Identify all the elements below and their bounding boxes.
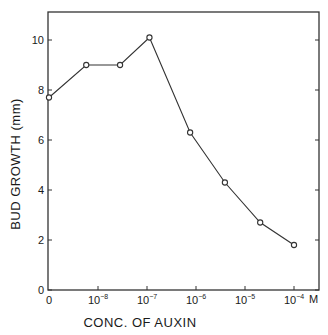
data-point-marker (84, 62, 89, 67)
plot-border (48, 12, 319, 290)
x-tick-label: 10−5 (235, 293, 255, 306)
y-tick-label: 0 (38, 284, 44, 296)
y-tick-label: 2 (38, 234, 44, 246)
y-tick-label: 6 (38, 134, 44, 146)
y-axis-ticks: 0246810 (32, 34, 319, 296)
x-tick-label: 10−8 (88, 293, 108, 306)
y-tick-label: 8 (38, 84, 44, 96)
data-point-marker (188, 130, 193, 135)
chart: 0246810 010−810−710−610−510−4 M CONC. OF… (0, 0, 328, 335)
x-axis-label: CONC. OF AUXIN (83, 315, 196, 330)
data-point-marker (117, 62, 122, 67)
data-series (46, 35, 296, 248)
data-point-marker (291, 242, 296, 247)
series-line (49, 38, 294, 246)
y-tick-label: 10 (32, 34, 44, 46)
y-tick-label: 4 (38, 184, 44, 196)
x-tick-label: 10−7 (137, 293, 157, 306)
data-point-marker (222, 180, 227, 185)
data-point-marker (46, 95, 51, 100)
x-tick-label: 10−6 (186, 293, 206, 306)
y-axis-label: BUD GROWTH (mm) (8, 98, 23, 230)
plot-frame (48, 12, 319, 290)
x-tick-label: 10−4 (284, 293, 304, 306)
data-point-marker (147, 35, 152, 40)
x-axis-ticks: 010−810−710−610−510−4 (46, 286, 304, 306)
x-tick-label: 0 (46, 294, 52, 306)
data-point-marker (258, 220, 263, 225)
x-unit-label: M (309, 293, 318, 305)
